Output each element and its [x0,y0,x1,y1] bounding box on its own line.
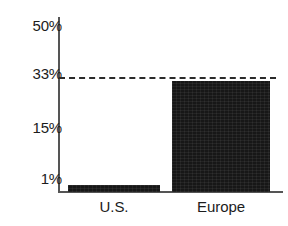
bar-us [68,185,160,192]
y-axis-tick-label-15: 15% [2,120,62,135]
bar-europe [172,81,270,192]
y-axis-line [58,17,60,193]
y-axis-tick-label-50: 50% [2,18,62,33]
bar-chart: 50% 33% 15% 1% U.S. Europe [0,0,288,226]
x-axis-label-us: U.S. [68,198,160,215]
x-axis-label-europe: Europe [172,198,270,215]
y-axis-tick-label-33: 33% [2,66,62,81]
y-axis-tick-label-1: 1% [2,171,62,186]
reference-line-33-percent [59,77,276,79]
